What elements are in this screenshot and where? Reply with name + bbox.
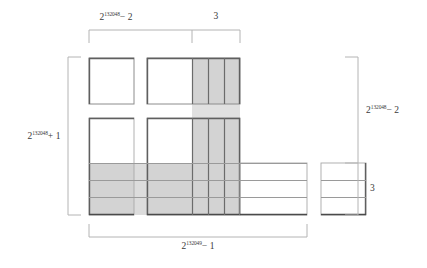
label-top-left-suffix: − 2 [120, 12, 133, 22]
block-top-left-square [89, 58, 134, 104]
label-top-right-text: 3 [214, 11, 219, 21]
geometry-figure [0, 0, 427, 268]
block-bottom-right-separated [321, 163, 366, 215]
bracket-left [68, 57, 81, 215]
label-top-left: 2132048− 2 [99, 11, 132, 22]
shaded-bottom-left-strip [89, 163, 134, 215]
bracket-top [89, 30, 240, 43]
bracket-right [345, 57, 358, 215]
shaded-gap-connector [134, 163, 147, 215]
shaded-column-lower [192, 118, 240, 215]
label-left: 2132048+ 1 [27, 130, 60, 141]
label-top-right: 3 [214, 11, 219, 21]
label-right-lower: 3 [370, 183, 375, 193]
shaded-column-upper [192, 58, 240, 104]
label-right-upper-suffix: − 2 [386, 105, 399, 115]
label-bottom: 2132049− 1 [181, 240, 214, 251]
figure-canvas: 2132048− 2 3 2132048+ 1 2132048− 2 3 213… [0, 0, 427, 268]
label-left-suffix: + 1 [48, 131, 61, 141]
label-right-lower-text: 3 [370, 183, 375, 193]
label-bottom-suffix: − 1 [202, 241, 215, 251]
shaded-column-bridge [192, 104, 240, 118]
shaded-bottom-mid-strip [147, 163, 192, 215]
label-right-upper-exponent: 132048 [371, 104, 387, 110]
label-bottom-exponent: 132049 [186, 240, 202, 246]
label-top-left-exponent: 132048 [104, 11, 120, 17]
bracket-bottom [89, 224, 307, 237]
block-bottom-extension [240, 163, 307, 215]
label-right-upper: 2132048− 2 [366, 104, 399, 115]
label-left-exponent: 132048 [32, 130, 48, 136]
